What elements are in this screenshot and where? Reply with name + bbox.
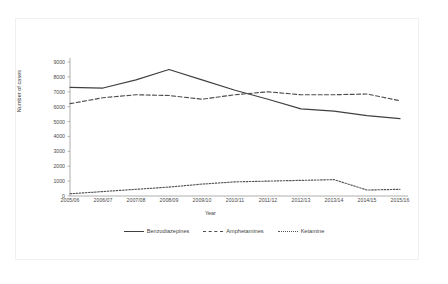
legend-item[interactable]: Amphetamines: [203, 228, 263, 234]
plot-svg: [0, 0, 448, 284]
series-line: [70, 92, 400, 104]
legend-swatch-dotted-icon: [278, 231, 298, 232]
line-chart: Number of cases Year 0100020003000400050…: [0, 0, 448, 284]
legend-item[interactable]: Benzodiazepines: [124, 228, 190, 234]
chart-legend: BenzodiazepinesAmphetaminesKetamine: [0, 228, 448, 234]
legend-swatch-solid-icon: [124, 231, 144, 232]
legend-item[interactable]: Ketamine: [278, 228, 325, 234]
legend-label: Amphetamines: [226, 228, 263, 234]
legend-label: Benzodiazepines: [147, 228, 190, 234]
series-line: [70, 180, 400, 194]
legend-swatch-dashed-icon: [203, 231, 223, 232]
chart-figure: Number of cases Year 0100020003000400050…: [0, 0, 448, 284]
legend-label: Ketamine: [301, 228, 325, 234]
